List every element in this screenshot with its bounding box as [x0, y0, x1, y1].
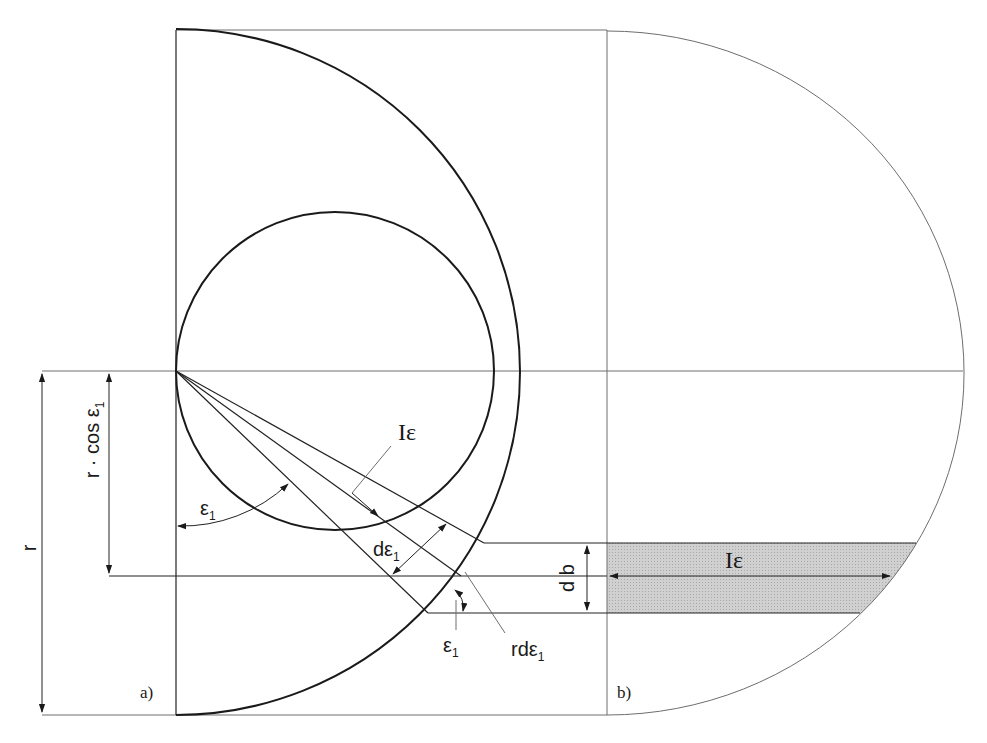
- diagram-canvas: r r · cos ε1 ε1 Iε dε1 rdε1 ε1 d b Iε a)…: [0, 0, 987, 743]
- shaded-strip: [607, 543, 967, 613]
- d-epsilon-label: dε1: [373, 538, 400, 564]
- rdeps-leader: [465, 572, 505, 633]
- rcos-label: r · cos ε1: [81, 401, 107, 478]
- epsilon-label: ε1: [200, 497, 216, 523]
- ray-middle: [176, 371, 461, 576]
- panel-label-a: a): [140, 683, 153, 702]
- r-label: r: [18, 544, 40, 551]
- big-semicircle: [176, 29, 520, 715]
- l-epsilon-pointer: [352, 493, 378, 516]
- l-epsilon-leader: [352, 446, 391, 493]
- epsilon-angle-arc: [178, 484, 288, 526]
- l-epsilon-label-b: Iε: [725, 547, 743, 573]
- ray-inner: [176, 371, 428, 613]
- d-epsilon-arrow: [393, 524, 446, 574]
- db-label: d b: [556, 564, 578, 592]
- ray-outer: [176, 371, 484, 543]
- l-epsilon-label-a: Iε: [398, 419, 416, 445]
- lower-epsilon-label: ε1: [443, 634, 459, 660]
- panel-label-b: b): [617, 683, 631, 702]
- rdeps-label: rdε1: [511, 638, 545, 664]
